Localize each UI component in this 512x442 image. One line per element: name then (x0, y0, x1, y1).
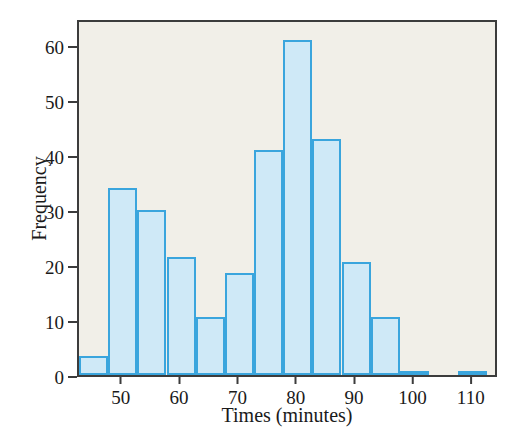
y-axis-tick-mark (68, 266, 77, 268)
bars-container (79, 22, 495, 375)
y-axis-tick-label: 0 (55, 368, 65, 387)
y-axis-title: Frequency (26, 20, 52, 377)
histogram-bar (254, 150, 283, 375)
plot-area (77, 20, 497, 377)
x-axis-title: Times (minutes) (77, 405, 497, 425)
x-axis-tick: 110 (457, 377, 485, 407)
x-axis-tick: 90 (345, 377, 364, 407)
histogram-bar (312, 139, 341, 375)
histogram-bar (108, 188, 137, 375)
histogram-figure: 0102030405060 5060708090100110 Frequency… (0, 0, 512, 442)
histogram-bar (400, 371, 429, 375)
y-axis-tick-mark (68, 156, 77, 158)
y-axis-tick-mark (68, 211, 77, 213)
x-axis-tick-mark (470, 377, 472, 384)
histogram-bar (458, 371, 487, 375)
x-axis-tick: 50 (111, 377, 130, 407)
y-axis-tick-mark (68, 376, 77, 378)
y-axis-tick-mark (68, 321, 77, 323)
histogram-bar (342, 262, 371, 375)
y-axis-tick-mark (68, 101, 77, 103)
x-axis-tick-mark (411, 377, 413, 384)
histogram-bar (137, 210, 166, 375)
histogram-bar (371, 317, 400, 375)
x-axis-tick: 70 (228, 377, 247, 407)
x-axis-tick: 80 (286, 377, 305, 407)
x-axis-tick-mark (120, 377, 122, 384)
histogram-bar (283, 40, 312, 375)
histogram-bar (79, 356, 108, 375)
x-axis-tick-mark (236, 377, 238, 384)
x-axis-tick-mark (178, 377, 180, 384)
x-axis-tick: 60 (170, 377, 189, 407)
histogram-bar (196, 317, 225, 375)
histogram-bar (167, 257, 196, 375)
histogram-bar (225, 273, 254, 375)
y-axis-tick-mark (68, 46, 77, 48)
x-axis-tick-mark (353, 377, 355, 384)
x-axis-tick-mark (295, 377, 297, 384)
x-axis-tick: 100 (398, 377, 427, 407)
